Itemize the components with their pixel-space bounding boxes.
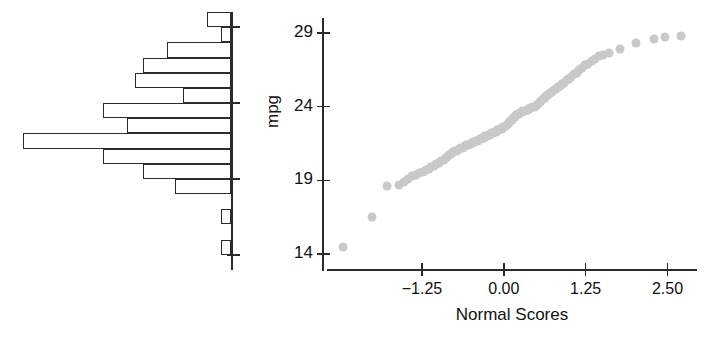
qq-y-tick-label: 24 [294, 96, 313, 116]
qq-x-axis-line [327, 269, 697, 271]
qq-point [632, 39, 641, 48]
qq-point [367, 213, 376, 222]
qq-point [383, 182, 392, 191]
qq-x-tick [585, 263, 587, 276]
histogram-bar [127, 118, 231, 133]
qq-point [650, 34, 659, 43]
qq-y-tick-label: 14 [294, 243, 313, 263]
histogram-bar [221, 27, 231, 42]
qq-y-tick-label: 29 [294, 22, 313, 42]
qq-y-tick [317, 253, 330, 255]
histogram-axis-line [231, 12, 233, 270]
mpg-histogram-and-qq-plot-figure: 29241914 −1.250.001.252.50 mpg Normal Sc… [0, 0, 709, 352]
histogram-bar [221, 240, 231, 255]
qq-point [616, 45, 625, 54]
qq-x-tick [667, 263, 669, 276]
qq-point [604, 49, 613, 58]
qq-y-tick [317, 106, 330, 108]
histogram-bar [103, 103, 231, 118]
histogram-bar [167, 42, 231, 57]
qq-x-axis-title: Normal Scores [255, 305, 709, 325]
histogram-bar [23, 133, 231, 148]
qq-point [660, 33, 669, 42]
histogram-bar [175, 179, 231, 194]
qq-x-tick-label: 0.00 [488, 280, 519, 298]
qq-y-axis-line [322, 18, 324, 271]
histogram-bar [207, 12, 231, 27]
histogram-bar [143, 164, 231, 179]
qq-point [338, 242, 347, 251]
qq-y-tick [317, 180, 330, 182]
histogram-bar [103, 149, 231, 164]
qq-x-tick [421, 263, 423, 276]
qq-y-axis-title: mpg [263, 95, 283, 128]
histogram-bar [221, 209, 231, 224]
qq-plot-panel: 29241914 −1.250.001.252.50 mpg Normal Sc… [255, 0, 709, 352]
histogram-bar [135, 73, 231, 88]
qq-point [676, 31, 685, 40]
qq-x-tick [503, 263, 505, 276]
qq-y-tick [317, 32, 330, 34]
qq-x-tick-label: 2.50 [652, 280, 683, 298]
histogram-bar [143, 58, 231, 73]
qq-y-tick-label: 19 [294, 169, 313, 189]
qq-x-tick-label: 1.25 [570, 280, 601, 298]
histogram-bar [183, 88, 231, 103]
qq-x-tick-label: −1.25 [402, 280, 442, 298]
histogram-panel [0, 0, 255, 300]
